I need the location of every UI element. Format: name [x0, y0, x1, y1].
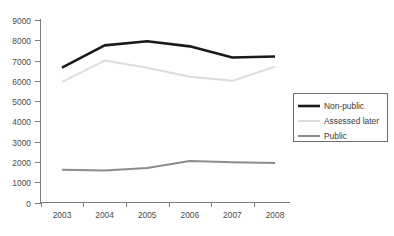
series-line-assessed-later — [62, 61, 275, 82]
y-tick-label-1000: 1000 — [12, 178, 31, 188]
chart-legend: Non-publicAssessed laterPublic — [294, 94, 388, 142]
y-tick-label-4000: 4000 — [12, 117, 31, 127]
x-tick-label-2008: 2008 — [266, 210, 285, 220]
y-tick-labels: 0100020003000400050006000700080009000 — [12, 16, 31, 209]
y-tick-label-0: 0 — [26, 199, 31, 209]
series-line-public — [62, 161, 275, 171]
chart-canvas: 0100020003000400050006000700080009000 20… — [0, 0, 394, 236]
legend-label-assessed-later: Assessed later — [324, 116, 379, 126]
x-tick-label-2004: 2004 — [95, 210, 114, 220]
y-tick-label-3000: 3000 — [12, 138, 31, 148]
legend-label-public: Public — [324, 131, 347, 141]
x-tick-label-2003: 2003 — [53, 210, 72, 220]
legend-label-non-public: Non-public — [324, 101, 364, 111]
y-tick-label-2000: 2000 — [12, 158, 31, 168]
series-line-non-public — [62, 41, 275, 67]
x-tick-marks — [42, 203, 255, 207]
y-tick-label-8000: 8000 — [12, 36, 31, 46]
data-series-group — [62, 41, 275, 170]
y-tick-label-7000: 7000 — [12, 57, 31, 67]
line-chart: 0100020003000400050006000700080009000 20… — [0, 0, 394, 236]
y-tick-label-6000: 6000 — [12, 77, 31, 87]
y-tick-label-9000: 9000 — [12, 16, 31, 26]
x-tick-labels: 200320042005200620072008 — [53, 210, 285, 220]
x-tick-label-2005: 2005 — [138, 210, 157, 220]
y-tick-marks — [35, 21, 41, 204]
x-tick-label-2007: 2007 — [223, 210, 242, 220]
x-tick-label-2006: 2006 — [180, 210, 199, 220]
y-tick-label-5000: 5000 — [12, 97, 31, 107]
